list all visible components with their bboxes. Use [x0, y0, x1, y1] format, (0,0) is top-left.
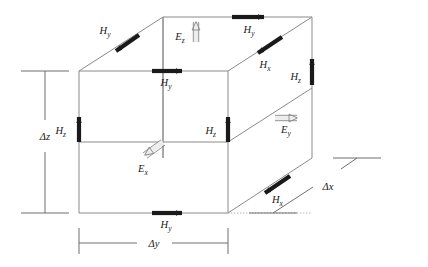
label-hx-top-right: Hx — [259, 59, 272, 73]
arrow-hy-top-back-left — [116, 35, 139, 51]
yee-cell-figure: Δz Δy Δx — [0, 0, 428, 267]
label-ey-right: Ey — [280, 124, 291, 138]
label-hx-bottom-right: Hx — [271, 194, 284, 208]
label-ex-center: Ex — [137, 163, 148, 177]
dimension-label-dz: Δz — [39, 131, 50, 142]
label-hy-top-front-mid: Hy — [160, 77, 173, 91]
arrow-hx-bottom-right — [265, 176, 290, 193]
dimension-dz — [21, 71, 69, 213]
dimension-dx — [249, 158, 381, 213]
dx-line-upper — [341, 158, 357, 169]
label-hy-top-back-left: Hy — [99, 25, 112, 39]
dimension-label-dy: Δy — [148, 238, 160, 249]
yee-cell-diagram: Δz Δy Δx — [0, 0, 428, 267]
label-hz-left: Hz — [54, 125, 66, 139]
label-hy-bottom-front: Hy — [160, 219, 173, 233]
label-hz-mid: Hz — [204, 125, 216, 139]
label-hy-top-back-right: Hy — [243, 24, 256, 38]
field-labels: Hy Hy Hy Hx Hz Hz Hz Hy — [54, 24, 301, 233]
arrow-hx-top-right — [258, 37, 282, 53]
dimension-label-dx: Δx — [322, 181, 334, 192]
label-hz-right: Hz — [289, 71, 301, 85]
label-ez-top: Ez — [174, 31, 184, 45]
